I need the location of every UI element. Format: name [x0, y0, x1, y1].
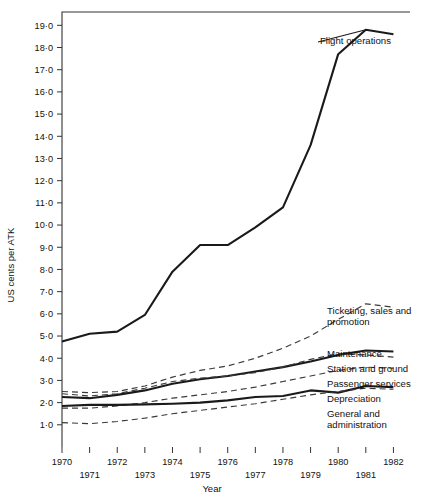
x-tick-label: 1977 — [245, 470, 265, 480]
x-tick-label: 1980 — [328, 457, 348, 467]
y-tick-label: 14·0 — [35, 132, 53, 142]
series-line-station-and-ground — [62, 354, 393, 396]
x-axis-title: Year — [202, 483, 221, 494]
y-tick-label: 8·0 — [40, 265, 53, 275]
y-tick-label: 4·0 — [40, 354, 53, 364]
series-label-ticketing: Ticketing, sales and promotion — [327, 305, 411, 328]
x-tick-label: 1981 — [356, 470, 376, 480]
y-tick-label: 17·0 — [35, 65, 53, 75]
x-axis-ticks: 1970197219741976197819801982197119731975… — [52, 447, 404, 480]
y-tick-label: 5·0 — [40, 331, 53, 341]
x-tick-label: 1978 — [273, 457, 293, 467]
chart-page: 1·02·03·04·05·06·07·08·09·010·011·012·01… — [0, 0, 441, 498]
y-axis-title: US cents per ATK — [5, 227, 16, 302]
x-tick-label: 1970 — [52, 457, 72, 467]
x-tick-label: 1972 — [107, 457, 127, 467]
series-line-flight-operations — [62, 30, 393, 342]
series-label-flight-operations: Flight operations — [320, 35, 391, 46]
x-tick-label: 1979 — [300, 470, 320, 480]
series-label-passenger-services: Passenger services — [327, 378, 411, 389]
y-tick-label: 1·0 — [40, 420, 53, 430]
y-tick-label: 18·0 — [35, 43, 53, 53]
series-label-depreciation: Depreciation — [327, 393, 381, 404]
x-tick-label: 1974 — [162, 457, 182, 467]
y-tick-label: 15·0 — [35, 109, 53, 119]
x-tick-label: 1975 — [190, 470, 210, 480]
y-tick-label: 2·0 — [40, 398, 53, 408]
y-tick-label: 16·0 — [35, 87, 53, 97]
y-tick-label: 11·0 — [35, 198, 53, 208]
y-axis-ticks: 1·02·03·04·05·06·07·08·09·010·011·012·01… — [35, 21, 62, 430]
y-tick-label: 6·0 — [40, 309, 53, 319]
series-label-station-and-ground: Station and ground — [327, 363, 408, 374]
x-tick-label: 1982 — [383, 457, 403, 467]
series-label-general-and-administration: General and administration — [327, 408, 387, 431]
y-tick-label: 13·0 — [35, 154, 53, 164]
series-label-maintenance: Maintenance — [327, 348, 382, 359]
y-tick-label: 3·0 — [40, 376, 53, 386]
y-tick-label: 7·0 — [40, 287, 53, 297]
y-tick-label: 19·0 — [35, 21, 53, 31]
y-tick-label: 9·0 — [40, 243, 53, 253]
x-tick-label: 1976 — [217, 457, 237, 467]
y-tick-label: 12·0 — [35, 176, 53, 186]
x-tick-label: 1971 — [79, 470, 99, 480]
x-tick-label: 1973 — [135, 470, 155, 480]
y-tick-label: 10·0 — [35, 220, 53, 230]
